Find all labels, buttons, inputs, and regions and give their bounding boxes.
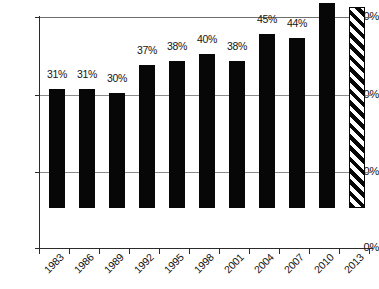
bar-2004 [259, 34, 275, 208]
bar-group-1989: 30% [102, 0, 132, 208]
bar-group-1995: 38% [162, 0, 192, 208]
x-tick-label-1986: 1986 [68, 248, 100, 280]
bar-1989 [109, 93, 125, 208]
bar-2007 [289, 38, 305, 208]
bar-group-1992: 37% [132, 0, 162, 208]
x-tick-label-1998: 1998 [188, 248, 220, 280]
x-tick-label-2007: 2007 [278, 248, 310, 280]
bar-group-1983: 31% [42, 0, 72, 208]
bar-2010 [319, 3, 335, 208]
bar-value-label: 30% [97, 73, 137, 84]
x-axis-labels: 1983 1986 1989 1992 1995 1998 2001 2004 … [39, 254, 373, 289]
bar-group-2013: 52% (est.) [342, 0, 372, 208]
bar-group-2004: 45% [252, 0, 282, 208]
bar-2001 [229, 61, 245, 208]
bar-1992 [139, 65, 155, 208]
x-tick-label-1989: 1989 [98, 248, 130, 280]
bar-group-2001: 38% [222, 0, 252, 208]
x-tick-label-2001: 2001 [218, 248, 250, 280]
bar-2013-estimated [349, 7, 365, 208]
x-tick-label-2004: 2004 [248, 248, 280, 280]
bars-layer: 31% 31% 30% 37% 38% 40% 38% 45% [39, 0, 373, 249]
bar-value-label: 38% [217, 41, 257, 52]
bar-group-1986: 31% [72, 0, 102, 208]
bar-group-2010: 53% [312, 0, 342, 208]
bar-group-1998: 40% [192, 0, 222, 208]
bar-1995 [169, 61, 185, 208]
bar-1998 [199, 54, 215, 208]
bar-1986 [79, 89, 95, 208]
bar-1983 [49, 89, 65, 208]
x-tick-label-1995: 1995 [158, 248, 190, 280]
x-tick-label-2010: 2010 [308, 248, 340, 280]
bar-group-2007: 44% [282, 0, 312, 208]
x-tick-label-2013: 2013 [338, 248, 370, 280]
bar-chart: 60% 40% 20% 0% 31% 31% 30% 37% [0, 0, 379, 289]
bar-value-label: 44% [277, 18, 317, 29]
x-tick-label-1983: 1983 [38, 248, 70, 280]
x-tick-label-1992: 1992 [128, 248, 160, 280]
